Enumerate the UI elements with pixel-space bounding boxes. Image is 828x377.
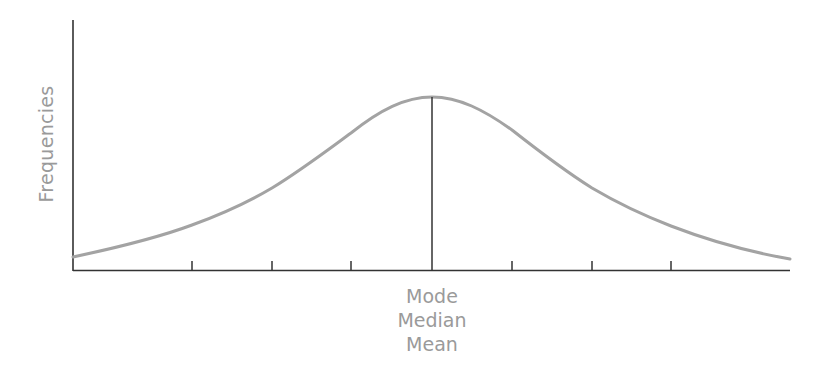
- center-labels: Mode Median Mean: [397, 284, 466, 356]
- median-label: Median: [397, 308, 466, 332]
- mean-label: Mean: [397, 332, 466, 356]
- y-axis-label: Frequencies: [35, 85, 57, 202]
- mode-label: Mode: [397, 284, 466, 308]
